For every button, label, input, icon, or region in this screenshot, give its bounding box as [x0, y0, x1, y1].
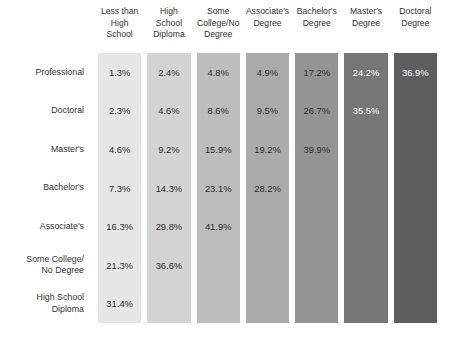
data-cell: 19.2% — [246, 130, 289, 169]
data-cell: 24.2% — [344, 53, 387, 92]
data-cell-empty — [394, 92, 437, 131]
data-cell-empty — [197, 246, 240, 285]
row-label-3: Bachelor's — [0, 169, 90, 208]
data-cell: 35.5% — [344, 92, 387, 131]
data-cell: 1.3% — [98, 53, 141, 92]
data-cell: 4.6% — [147, 92, 190, 131]
row-label-0: Professional — [0, 53, 90, 92]
data-cell-empty — [197, 284, 240, 323]
data-cell-empty — [344, 207, 387, 246]
column-header-5: Master's Degree — [341, 6, 390, 52]
data-cell: 7.3% — [98, 169, 141, 208]
data-column: 17.2%26.7%39.9% — [292, 53, 341, 323]
data-column: 1.3%2.3%4.6%7.3%16.3%21.3%31.4% — [95, 53, 144, 323]
data-cell: 4.8% — [197, 53, 240, 92]
data-cell: 17.2% — [295, 53, 338, 92]
column-header-4: Bachelor's Degree — [292, 6, 341, 52]
column-header-0: Less than High School — [95, 6, 144, 52]
data-cell-empty — [246, 246, 289, 285]
column-header-3: Associate's Degree — [243, 6, 292, 52]
data-cell: 31.4% — [98, 284, 141, 323]
data-column: 36.9% — [391, 53, 440, 323]
data-cell-empty — [394, 207, 437, 246]
data-cell: 4.9% — [246, 53, 289, 92]
cell-stack: 36.9% — [394, 53, 437, 323]
data-cell: 39.9% — [295, 130, 338, 169]
row-label-4: Associate's — [0, 207, 90, 246]
data-cell: 26.7% — [295, 92, 338, 131]
columns-area: 1.3%2.3%4.6%7.3%16.3%21.3%31.4%2.4%4.6%9… — [95, 53, 440, 323]
column-header-2: Some College/No Degree — [194, 6, 243, 52]
data-cell: 29.8% — [147, 207, 190, 246]
data-cell: 2.4% — [147, 53, 190, 92]
data-cell-empty — [394, 284, 437, 323]
data-cell: 23.1% — [197, 169, 240, 208]
data-cell-empty — [394, 130, 437, 169]
data-cell-empty — [246, 207, 289, 246]
data-cell: 15.9% — [197, 130, 240, 169]
cell-stack: 17.2%26.7%39.9% — [295, 53, 338, 323]
column-header-6: Doctoral Degree — [391, 6, 440, 52]
data-cell: 36.9% — [394, 53, 437, 92]
cell-stack: 4.8%8.6%15.9%23.1%41.9% — [197, 53, 240, 323]
data-cell-empty — [295, 207, 338, 246]
data-cell-empty — [344, 246, 387, 285]
data-cell-empty — [147, 284, 190, 323]
data-cell-empty — [246, 284, 289, 323]
data-column: 24.2%35.5% — [341, 53, 390, 323]
data-column: 4.9%9.5%19.2%28.2% — [243, 53, 292, 323]
data-cell: 41.9% — [197, 207, 240, 246]
data-cell: 9.2% — [147, 130, 190, 169]
data-cell: 4.6% — [98, 130, 141, 169]
education-attainment-heatmap: Less than High School High School Diplom… — [0, 0, 450, 339]
data-cell-empty — [344, 130, 387, 169]
cell-stack: 2.4%4.6%9.2%14.3%29.8%36.6% — [147, 53, 190, 323]
data-cell-empty — [394, 246, 437, 285]
data-cell: 14.3% — [147, 169, 190, 208]
data-cell: 8.6% — [197, 92, 240, 131]
data-column: 4.8%8.6%15.9%23.1%41.9% — [194, 53, 243, 323]
cell-stack: 4.9%9.5%19.2%28.2% — [246, 53, 289, 323]
data-cell: 2.3% — [98, 92, 141, 131]
row-label-2: Master's — [0, 130, 90, 169]
data-cell: 28.2% — [246, 169, 289, 208]
data-cell: 21.3% — [98, 246, 141, 285]
data-cell-empty — [295, 169, 338, 208]
row-label-column: Professional Doctoral Master's Bachelor'… — [0, 53, 90, 323]
row-label-1: Doctoral — [0, 92, 90, 131]
data-cell: 36.6% — [147, 246, 190, 285]
data-cell-empty — [295, 284, 338, 323]
row-label-6: High School Diploma — [0, 284, 90, 323]
row-label-5: Some College/ No Degree — [0, 246, 90, 285]
cell-stack: 1.3%2.3%4.6%7.3%16.3%21.3%31.4% — [98, 53, 141, 323]
data-cell-empty — [295, 246, 338, 285]
data-cell-empty — [344, 284, 387, 323]
data-cell-empty — [394, 169, 437, 208]
data-cell: 16.3% — [98, 207, 141, 246]
data-cell: 9.5% — [246, 92, 289, 131]
column-header-row: Less than High School High School Diplom… — [95, 6, 440, 52]
data-cell-empty — [344, 169, 387, 208]
column-header-1: High School Diploma — [144, 6, 193, 52]
data-column: 2.4%4.6%9.2%14.3%29.8%36.6% — [144, 53, 193, 323]
cell-stack: 24.2%35.5% — [344, 53, 387, 323]
